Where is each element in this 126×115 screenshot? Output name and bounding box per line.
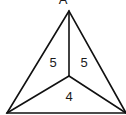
region-label-left: 5: [49, 55, 56, 70]
region-label-right: 5: [80, 55, 87, 70]
edge-bottomright-to-interior: [69, 76, 126, 113]
region-label-bottom: 4: [65, 89, 72, 104]
top-glyph-fragment: A: [59, 0, 68, 7]
triangle-diagram: A 5 5 4: [0, 0, 126, 115]
edge-bottomleft-to-interior: [7, 76, 69, 113]
